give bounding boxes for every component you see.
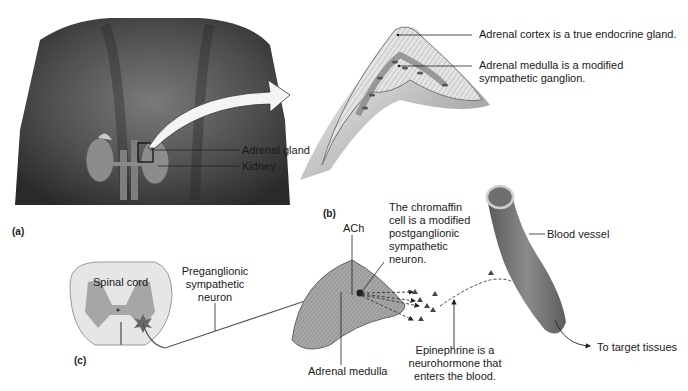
label-preganglionic-3: neuron <box>180 291 250 304</box>
label-chromaffin-3: postganglionic <box>389 227 459 240</box>
label-chromaffin-2: cell is a modified <box>389 214 470 227</box>
adrenal-gland-small <box>292 260 405 349</box>
label-ach: ACh <box>343 222 364 235</box>
label-chromaffin-1: The chromaffin <box>389 201 462 214</box>
label-preganglionic-2: sympathetic <box>180 278 250 291</box>
label-kidney: Kidney <box>242 160 276 173</box>
adrenal-cross-section <box>300 27 490 180</box>
label-adrenal-gland: Adrenal gland <box>242 144 310 157</box>
label-chromaffin-5: neuron. <box>389 253 426 266</box>
label-epinephrine-1: Epinephrine is a <box>405 344 505 357</box>
label-spinal-cord: Spinal cord <box>93 276 148 289</box>
panel-label-a: (a) <box>12 226 24 237</box>
label-adrenal-medulla-2: sympathetic ganglion. <box>479 72 585 85</box>
label-preganglionic-1: Preganglionic <box>180 265 250 278</box>
label-target-tissues: To target tissues <box>597 341 677 354</box>
label-epinephrine-3: enters the blood. <box>405 370 505 383</box>
spinal-cord-section <box>70 262 172 345</box>
label-blood-vessel: Blood vessel <box>547 228 609 241</box>
blood-vessel-illustration <box>487 186 566 334</box>
label-adrenal-medulla-1: Adrenal medulla is a modified <box>479 59 623 72</box>
label-epinephrine-2: neurohormone that <box>405 357 505 370</box>
label-adrenal-medulla: Adrenal medulla <box>308 365 388 378</box>
panel-label-c: (c) <box>74 355 86 366</box>
label-chromaffin-4: sympathetic <box>389 240 448 253</box>
label-adrenal-cortex: Adrenal cortex is a true endocrine gland… <box>479 28 677 41</box>
panel-label-b: (b) <box>323 208 336 219</box>
